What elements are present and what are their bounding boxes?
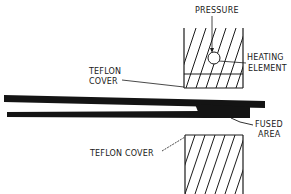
fused-area-label-line2: AREA — [258, 130, 281, 139]
heating-element-leader — [219, 61, 246, 63]
teflon-cover-lower-label: TEFLON COVER — [89, 149, 154, 158]
heating-element-label-line2: ELEMENT — [248, 64, 287, 73]
heating-element-label-line1: HEATING — [247, 53, 284, 62]
fused-area-leader — [231, 118, 253, 125]
heating-element — [208, 52, 220, 64]
teflon-cover-lower-leader — [162, 137, 185, 151]
teflon-cover-upper-label-line1: TEFLON — [88, 67, 121, 76]
fused-area-label-line1: FUSED — [255, 120, 283, 129]
pressure-label: PRESSURE — [195, 6, 239, 15]
heat-sealing-diagram: PRESSURE HEATING ELEMENT TEFLON COVER FU… — [0, 0, 291, 194]
teflon-cover-upper-leader — [122, 80, 184, 87]
teflon-cover-upper-label-line2: COVER — [89, 77, 118, 86]
lower-jaw — [175, 135, 265, 194]
